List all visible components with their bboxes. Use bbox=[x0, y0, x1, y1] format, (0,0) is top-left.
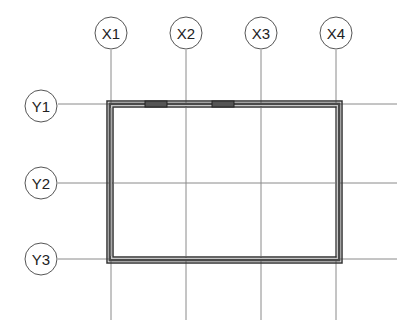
grid-label-y3: Y3 bbox=[32, 251, 50, 268]
grid-bubbles-x bbox=[95, 17, 352, 49]
window-2 bbox=[212, 101, 234, 107]
grid-label-x4: X4 bbox=[327, 25, 345, 42]
grid-label-x2: X2 bbox=[177, 25, 195, 42]
window-1 bbox=[145, 101, 167, 107]
walls bbox=[107, 101, 342, 263]
floor-plan-drawing: X1 X2 X3 X4 Y1 Y2 Y3 bbox=[0, 0, 418, 334]
grid-label-y2: Y2 bbox=[32, 175, 50, 192]
grid-label-x3: X3 bbox=[252, 25, 270, 42]
grid-label-y1: Y1 bbox=[32, 98, 50, 115]
grid-label-x1: X1 bbox=[102, 25, 120, 42]
